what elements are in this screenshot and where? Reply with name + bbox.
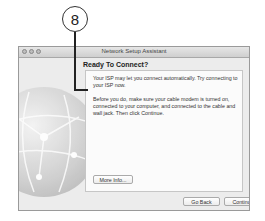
callout-number: 8 bbox=[71, 11, 79, 28]
instruction-text-1: Your ISP may let you connect automatical… bbox=[93, 75, 238, 89]
content-panel: Your ISP may let you connect automatical… bbox=[85, 70, 243, 192]
window-title: Network Setup Assistant bbox=[19, 48, 249, 54]
continue-button[interactable]: Continue bbox=[224, 197, 250, 206]
more-info-button[interactable]: More Info... bbox=[93, 175, 133, 184]
instruction-text-2: Before you do, make sure your cable mode… bbox=[93, 96, 238, 117]
go-back-button[interactable]: Go Back bbox=[183, 197, 220, 206]
network-setup-window: Network Setup Assistant Ready To Connect… bbox=[18, 46, 250, 211]
page-heading: Ready To Connect? bbox=[83, 61, 148, 68]
callout-line-horizontal bbox=[74, 89, 88, 91]
callout-badge: 8 bbox=[62, 6, 88, 32]
callout-line bbox=[74, 32, 76, 90]
title-bar[interactable]: Network Setup Assistant bbox=[19, 47, 249, 58]
